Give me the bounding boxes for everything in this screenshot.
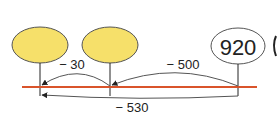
arc-minus-530 xyxy=(42,95,238,98)
arc-minus-500 xyxy=(112,73,238,86)
label-minus-530: − 530 xyxy=(116,100,149,115)
label-minus-30: − 30 xyxy=(59,57,85,72)
blank-ellipse-2[interactable] xyxy=(82,27,138,63)
arc-minus-30 xyxy=(42,74,110,86)
label-minus-500: − 500 xyxy=(167,57,200,72)
number-line-diagram: 920 − 500 − 30 − 530 xyxy=(0,0,279,129)
cropped-shape-edge xyxy=(274,36,276,56)
start-value: 920 xyxy=(220,35,257,60)
